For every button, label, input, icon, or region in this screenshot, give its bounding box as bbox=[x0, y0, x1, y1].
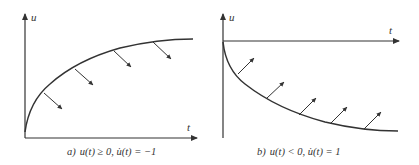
t-axis-label: t bbox=[389, 24, 393, 36]
u-axis-label: u bbox=[31, 11, 37, 23]
panel-b: u t b)u(t) < 0, u̇(t) = 1 bbox=[223, 11, 399, 158]
trajectory-curve bbox=[223, 42, 398, 131]
t-axis-label: t bbox=[187, 121, 191, 133]
trajectory-curve bbox=[25, 39, 193, 132]
caption-b: b)u(t) < 0, u̇(t) = 1 bbox=[257, 146, 341, 158]
panel-a: u t a)u(t) ≥ 0, u̇(t) = −1 bbox=[25, 11, 197, 158]
caption-a: a)u(t) ≥ 0, u̇(t) = −1 bbox=[67, 146, 156, 158]
u-axis-label: u bbox=[229, 11, 235, 23]
phase-diagrams: u t a)u(t) ≥ 0, u̇(t) = −1 u t b)u(t) < … bbox=[0, 0, 419, 165]
